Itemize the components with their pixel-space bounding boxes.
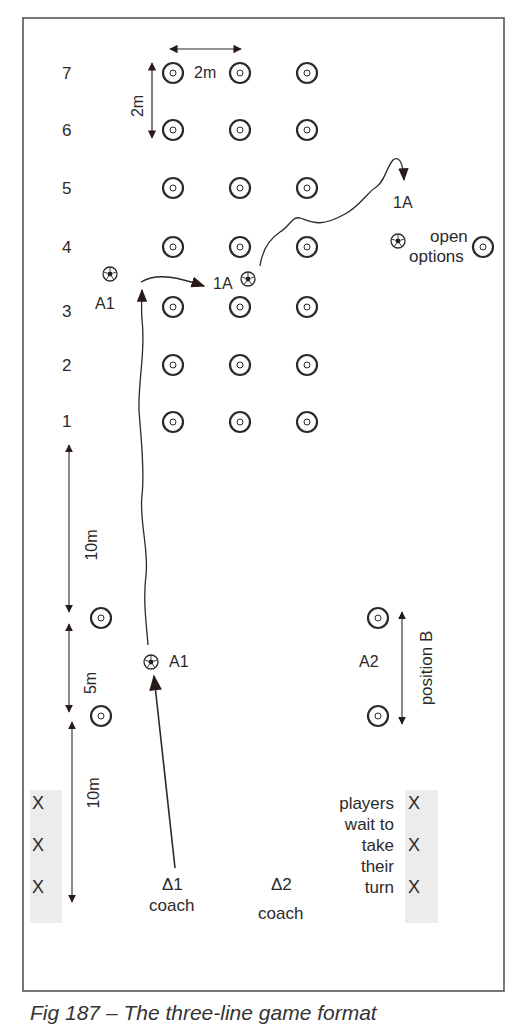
ball-open-options [391,234,405,248]
player-label-1a-top: 1A [393,195,413,211]
position-b-cone-upper [368,608,388,628]
players-wait-line: take [330,835,394,856]
dim-label-10m-top: 10m [84,529,100,560]
open-options-label-line2: options [409,249,464,265]
dim-label-10m-bottom: 10m [86,777,102,808]
row-label-6: 6 [62,123,71,139]
queue-right-player-2: X [408,837,420,853]
coach-2-symbol: Δ2 [271,877,292,893]
pass-to-1a-path [141,277,204,286]
coach-1-label: coach [149,898,194,914]
open-options-cone [473,237,493,257]
start-cone-upper [91,608,111,628]
players-wait-line: players [330,793,394,814]
position-b-cone-lower [368,706,388,726]
players-wait-line: turn [330,877,394,898]
coach-2-label: coach [258,906,303,922]
row-label-7: 7 [62,66,71,82]
row-label-1: 1 [62,414,71,430]
position-b-label: position B [419,631,435,706]
open-options-label-line1: open [430,229,468,245]
queue-right-player-1: X [408,795,420,811]
row-label-4: 4 [62,240,71,256]
queue-right-player-3: X [408,879,420,895]
players-wait-line: their [330,856,394,877]
players-wait-line: wait to [330,814,394,835]
player-label-a2: A2 [359,654,379,670]
player-label-a1-top: A1 [95,296,115,312]
ball-a1-top [103,267,117,281]
player-label-1a-mid: 1A [213,276,233,292]
row-label-5: 5 [62,181,71,197]
players-wait-note: players wait to take their turn [330,793,394,898]
queue-left-player-2: X [32,837,44,853]
coach-pass-arrow [154,676,175,868]
player-label-a1-start: A1 [169,654,189,670]
queue-left-player-1: X [32,795,44,811]
dim-label-5m: 5m [83,672,99,694]
start-cone-lower [91,706,111,726]
figure-caption: Fig 187 – The three-line game format [30,1001,377,1025]
row-label-3: 3 [62,304,71,320]
ball-1a-mid [241,272,255,286]
cone-grid [163,63,317,432]
a1-dribble-path [139,290,148,645]
dim-label-2m-horizontal: 2m [194,65,216,81]
coach-1-symbol: Δ1 [162,877,183,893]
ball-a1-start [144,655,158,669]
1a-dribble-path [260,159,404,266]
queue-left-player-3: X [32,879,44,895]
dim-label-2m-vertical: 2m [130,95,146,117]
row-label-2: 2 [62,358,71,374]
